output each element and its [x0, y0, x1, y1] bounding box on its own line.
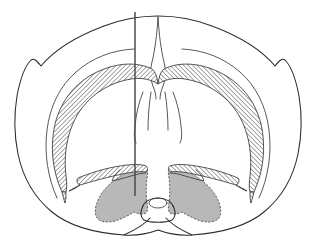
- brain-diagram-canvas: [0, 0, 316, 245]
- brain-section-figure: [0, 0, 316, 245]
